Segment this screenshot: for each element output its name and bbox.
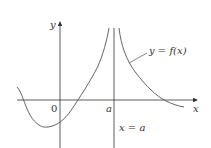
a-tick-label: a <box>106 103 112 114</box>
curve-label-leader <box>129 53 147 63</box>
curve-label: y = f(x) <box>148 45 187 56</box>
origin-label: 0 <box>51 103 57 114</box>
curve-left-branch <box>17 28 109 127</box>
curve-right-branch <box>119 28 184 107</box>
y-axis-label: y <box>49 19 56 30</box>
function-graph: y x 0 a x = a y = f(x) <box>0 0 211 148</box>
x-axis-label: x <box>193 103 199 114</box>
asymptote-label: x = a <box>119 122 145 133</box>
